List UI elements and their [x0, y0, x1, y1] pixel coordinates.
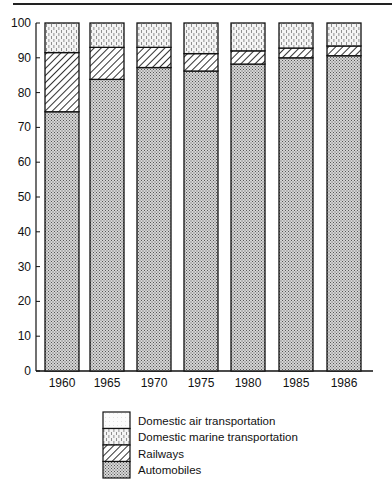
- bars: [45, 23, 361, 371]
- x-tick-label: 1986: [331, 376, 358, 390]
- y-tick-label: 70: [18, 120, 32, 134]
- bar-1970: [137, 23, 171, 371]
- segment-domestic-marine-transportation: [279, 23, 313, 48]
- y-tick-label: 0: [24, 364, 31, 378]
- y-tick-label: 60: [18, 155, 32, 169]
- legend-swatch-diagonal-hatch: [103, 445, 130, 462]
- stacked-bar-chart: 0102030405060708090100 19601965197019751…: [0, 0, 392, 493]
- segment-railways: [231, 51, 265, 64]
- y-tick-label: 40: [18, 225, 32, 239]
- segment-automobiles: [279, 58, 313, 371]
- legend-swatch-fine-dots: [103, 462, 130, 479]
- bar-1965: [90, 23, 124, 371]
- legend-swatch-light-dots: [103, 412, 130, 429]
- bar-1980: [231, 23, 265, 371]
- segment-automobiles: [137, 68, 171, 371]
- segment-domestic-marine-transportation: [231, 23, 265, 51]
- x-tick-label: 1975: [188, 376, 215, 390]
- segment-railways: [327, 46, 361, 56]
- x-tick-label: 1960: [49, 376, 76, 390]
- y-tick-label: 20: [18, 294, 32, 308]
- x-tick-label: 1970: [141, 376, 168, 390]
- segment-domestic-marine-transportation: [327, 23, 361, 46]
- segment-automobiles: [327, 56, 361, 371]
- x-tick-label: 1985: [283, 376, 310, 390]
- legend-item: Railways: [103, 445, 184, 462]
- segment-domestic-marine-transportation: [90, 23, 124, 47]
- segment-domestic-marine-transportation: [184, 23, 218, 54]
- legend-item: Domestic air transportation: [103, 412, 275, 429]
- legend-item: Automobiles: [103, 462, 202, 479]
- segment-domestic-marine-transportation: [137, 23, 171, 47]
- segment-railways: [137, 47, 171, 67]
- legend: Domestic air transportationDomestic mari…: [103, 412, 298, 478]
- segment-automobiles: [184, 71, 218, 371]
- legend-label: Railways: [138, 448, 184, 460]
- y-tick-label: 80: [18, 86, 32, 100]
- y-tick-label: 90: [18, 51, 32, 65]
- legend-item: Domestic marine transportation: [103, 429, 298, 446]
- segment-automobiles: [231, 64, 265, 371]
- bar-1986: [327, 23, 361, 371]
- bar-1960: [45, 23, 79, 371]
- y-tick-label: 100: [11, 16, 31, 30]
- x-tick-label: 1965: [94, 376, 121, 390]
- segment-railways: [279, 48, 313, 58]
- y-tick-label: 10: [18, 329, 32, 343]
- legend-label: Domestic marine transportation: [138, 431, 298, 443]
- segment-automobiles: [45, 112, 79, 371]
- segment-railways: [90, 47, 124, 79]
- segment-automobiles: [90, 79, 124, 371]
- bar-1975: [184, 23, 218, 371]
- legend-label: Automobiles: [138, 464, 202, 476]
- segment-railways: [45, 53, 79, 112]
- y-tick-label: 50: [18, 190, 32, 204]
- legend-swatch-vertical-dashes: [103, 429, 130, 446]
- legend-label: Domestic air transportation: [138, 415, 275, 427]
- y-tick-label: 30: [18, 260, 32, 274]
- bar-1985: [279, 23, 313, 371]
- segment-railways: [184, 54, 218, 71]
- segment-domestic-marine-transportation: [45, 23, 79, 53]
- x-tick-label: 1980: [235, 376, 262, 390]
- x-axis-labels: 1960196519701975198019851986: [49, 376, 358, 390]
